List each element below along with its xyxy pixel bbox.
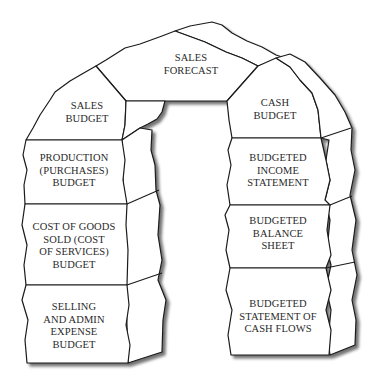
right-block-cash-budget: CASH BUDGET [240, 97, 310, 122]
left-block-cogs: COST OF GOODS SOLD (COST OF SERVICES) BU… [24, 221, 124, 271]
right-block-cash-flows: BUDGETED STATEMENT OF CASH FLOWS [230, 298, 326, 336]
left-block-production: PRODUCTION (PURCHASES) BUDGET [24, 152, 124, 190]
budget-arch-diagram: SALES FORECAST SALES BUDGET PRODUCTION (… [0, 0, 387, 385]
right-block-income-statement: BUDGETED INCOME STATEMENT [230, 152, 326, 190]
keystone-label: SALES FORECAST [136, 52, 246, 77]
left-block-selling: SELLING AND ADMIN EXPENSE BUDGET [24, 301, 124, 351]
left-pillar-side-face [122, 128, 166, 363]
left-block-sales-budget: SALES BUDGET [52, 100, 122, 125]
right-block-balance-sheet: BUDGETED BALANCE SHEET [230, 215, 326, 253]
